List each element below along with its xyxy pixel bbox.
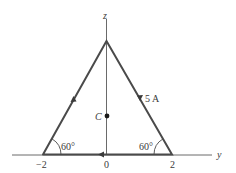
triangle-loop-diagram: z y −2 0 2 60° 60° 5 A C [0,0,236,173]
angle-label-right: 60° [139,141,153,152]
angle-arc-right [154,139,163,155]
arrow-left-base-icon [98,152,104,158]
z-axis-label: z [102,10,107,21]
current-label: 5 A [145,93,160,104]
point-c-label: C [95,111,102,122]
arrow-down-right-side-icon [137,95,143,101]
point-c-marker [105,114,110,119]
angle-label-left: 60° [61,141,75,152]
angle-arc-left [52,139,61,155]
y-axis-label: y [216,149,222,160]
tick-label-2: 2 [170,159,175,170]
tick-label-0: 0 [104,159,109,170]
tick-label-minus-2: −2 [36,159,47,170]
